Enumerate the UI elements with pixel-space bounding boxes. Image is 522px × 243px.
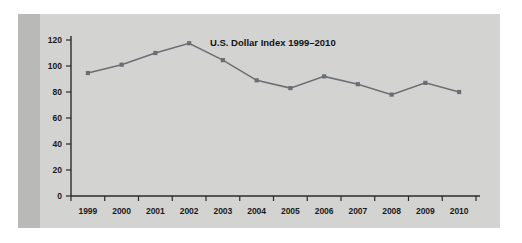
data-point-marker: [120, 63, 124, 67]
y-tick-label: 0: [57, 191, 62, 201]
data-point-marker: [390, 93, 394, 97]
y-axis-ticks: 020406080100120: [48, 35, 71, 201]
data-point-marker: [86, 71, 90, 75]
data-point-marker: [356, 82, 360, 86]
y-tick-label: 120: [48, 35, 62, 45]
data-point-marker: [221, 58, 225, 62]
data-point-marker: [153, 51, 157, 55]
x-tick-label: 2002: [180, 206, 199, 216]
x-tick-label: 2004: [247, 206, 266, 216]
x-tick-label: 2005: [281, 206, 300, 216]
x-tick-label: 2009: [416, 206, 435, 216]
chart-panel: 020406080100120 199920002001200220032004…: [18, 14, 500, 228]
y-tick-label: 20: [53, 165, 63, 175]
x-tick-label: 2003: [213, 206, 232, 216]
data-point-marker: [457, 90, 461, 94]
x-tick-label: 2010: [450, 206, 469, 216]
figure-root: 020406080100120 199920002001200220032004…: [0, 0, 522, 243]
x-tick-label: 2007: [348, 206, 367, 216]
data-point-marker: [423, 81, 427, 85]
y-tick-label: 100: [48, 61, 62, 71]
line-chart: 020406080100120 199920002001200220032004…: [18, 14, 500, 228]
x-tick-label: 2006: [315, 206, 334, 216]
series-markers: [86, 41, 461, 97]
x-tick-label: 2001: [146, 206, 165, 216]
y-tick-label: 40: [53, 139, 63, 149]
x-axis-ticks: 1999200020012002200320042005200620072008…: [71, 196, 476, 216]
data-point-marker: [288, 86, 292, 90]
x-tick-label: 2000: [112, 206, 131, 216]
data-point-marker: [187, 41, 191, 45]
series-line-us-dollar-index: [88, 43, 459, 94]
chart-title: U.S. Dollar Index 1999–2010: [210, 37, 336, 48]
y-tick-label: 60: [53, 113, 63, 123]
x-tick-label: 2008: [382, 206, 401, 216]
data-point-marker: [322, 74, 326, 78]
y-tick-label: 80: [53, 87, 63, 97]
data-point-marker: [255, 78, 259, 82]
x-tick-label: 1999: [78, 206, 97, 216]
